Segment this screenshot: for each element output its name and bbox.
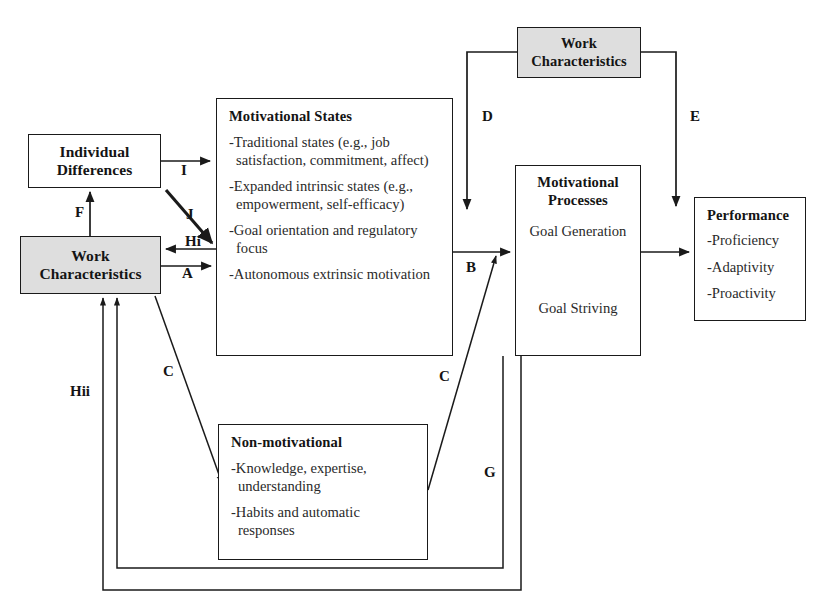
edge-label-J: J <box>186 206 194 223</box>
list-item: -Knowledge, expertise, understanding <box>231 460 417 495</box>
edge-label-G: G <box>484 464 496 481</box>
node-work-characteristics-left-title: Work Characteristics <box>39 247 141 284</box>
edge-label-C-left: C <box>163 363 174 380</box>
edge-label-Hii: Hii <box>70 383 90 400</box>
edge-label-D: D <box>482 108 493 125</box>
node-individual-differences[interactable]: Individual Differences <box>28 134 161 188</box>
edge-label-A: A <box>182 265 193 282</box>
node-motivational-states-item-2: -Goal orientation and regulatory focus <box>229 222 442 257</box>
edge-label-I: I <box>181 162 187 179</box>
node-performance-item-0: -Proficiency <box>707 232 795 250</box>
node-motivational-processes-title: Motivational Processes <box>516 174 640 209</box>
edge-label-Hi: Hi <box>185 233 201 250</box>
list-item: -Expanded intrinsic states (e.g., empowe… <box>229 178 442 213</box>
node-motivational-states-title: Motivational States <box>229 108 442 125</box>
node-work-characteristics-top-title: Work Characteristics <box>531 35 627 69</box>
edge-D <box>467 52 517 209</box>
node-performance-item-2: -Proactivity <box>707 285 795 303</box>
node-performance-title: Performance <box>707 207 795 224</box>
list-item: -Habits and automatic responses <box>231 504 417 539</box>
node-non-motivational-item-0: -Knowledge, expertise, understanding <box>231 460 417 495</box>
node-goal-generation: Goal Generation <box>516 223 640 240</box>
edge-label-C-right: C <box>439 368 450 385</box>
diagram-canvas: Individual Differences Work Characterist… <box>0 0 827 611</box>
edge-label-E: E <box>690 108 700 125</box>
node-work-characteristics-top[interactable]: Work Characteristics <box>517 27 641 78</box>
list-item: -Autonomous extrinsic motivation <box>229 266 442 284</box>
node-work-characteristics-left[interactable]: Work Characteristics <box>20 236 161 294</box>
node-non-motivational-title: Non-motivational <box>231 434 417 451</box>
node-motivational-processes[interactable]: Motivational Processes Goal Generation G… <box>515 165 641 356</box>
node-motivational-states-item-3: -Autonomous extrinsic motivation <box>229 266 442 284</box>
list-item: -Goal orientation and regulatory focus <box>229 222 442 257</box>
node-individual-differences-title: Individual Differences <box>57 143 133 180</box>
node-performance-item-1: -Adaptivity <box>707 259 795 277</box>
edge-label-F: F <box>75 204 84 221</box>
node-goal-striving: Goal Striving <box>516 300 640 317</box>
node-non-motivational-item-1: -Habits and automatic responses <box>231 504 417 539</box>
node-motivational-states-item-0: -Traditional states (e.g., job satisfact… <box>229 134 442 169</box>
edge-E <box>641 52 676 206</box>
node-non-motivational[interactable]: Non-motivational -Knowledge, expertise, … <box>218 424 428 560</box>
list-item: -Traditional states (e.g., job satisfact… <box>229 134 442 169</box>
node-motivational-states-item-1: -Expanded intrinsic states (e.g., empowe… <box>229 178 442 213</box>
edge-label-B: B <box>466 259 476 276</box>
node-motivational-states[interactable]: Motivational States -Traditional states … <box>216 98 453 356</box>
node-performance[interactable]: Performance -Proficiency -Adaptivity -Pr… <box>694 197 806 321</box>
edge-C-left <box>155 296 222 483</box>
